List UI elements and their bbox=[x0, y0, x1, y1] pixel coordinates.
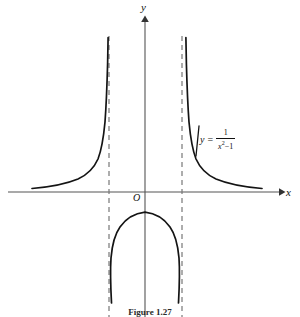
equation-numerator: 1 bbox=[222, 129, 230, 138]
curve-right-branch bbox=[186, 38, 262, 189]
origin-label: O bbox=[133, 193, 140, 203]
curve-left-branch bbox=[32, 38, 108, 189]
equation-annotation: y = 1 x2−1 bbox=[200, 129, 235, 151]
y-axis-label: y bbox=[141, 2, 146, 13]
figure-container: y x O y = 1 x2−1 Figure 1.27 bbox=[0, 0, 300, 317]
equation-leader-line bbox=[196, 126, 199, 156]
figure-caption: Figure 1.27 bbox=[0, 307, 300, 317]
equation-denominator: x2−1 bbox=[216, 139, 235, 151]
x-axis-label: x bbox=[286, 187, 291, 198]
equation-lhs: y bbox=[200, 134, 204, 145]
x-axis-arrowhead bbox=[279, 188, 286, 196]
equation-equals-sign: = bbox=[207, 134, 213, 145]
function-plot bbox=[0, 0, 300, 317]
equation-fraction: 1 x2−1 bbox=[216, 129, 235, 151]
denominator-constant: 1 bbox=[229, 142, 233, 151]
y-axis-arrowhead bbox=[141, 16, 149, 23]
